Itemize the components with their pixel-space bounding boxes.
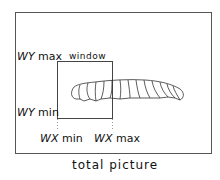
wx-max-label: WX max	[94, 133, 140, 144]
wx-min-label: WX min	[40, 133, 83, 144]
window-label: window	[69, 51, 106, 62]
diagram-canvas	[0, 0, 220, 180]
window-rect	[58, 62, 113, 119]
wy-max-label: WY max	[17, 51, 62, 62]
caterpillar-icon	[72, 80, 184, 101]
caption: total picture	[72, 160, 158, 171]
wy-min-label: WY min	[17, 107, 59, 118]
